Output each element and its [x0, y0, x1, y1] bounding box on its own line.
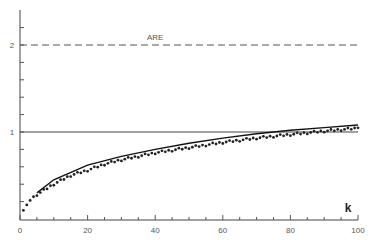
data-point — [309, 131, 312, 134]
data-point — [286, 133, 289, 136]
data-point — [319, 130, 322, 133]
data-point — [265, 136, 268, 139]
data-point — [42, 188, 45, 191]
data-point — [144, 153, 147, 156]
data-point — [147, 153, 150, 156]
x-axis-label: k — [345, 201, 352, 215]
data-point — [86, 170, 89, 173]
data-point — [323, 131, 326, 134]
data-point — [333, 129, 336, 132]
data-point — [171, 150, 174, 153]
data-point — [350, 128, 353, 131]
data-point — [269, 135, 272, 138]
theoretical-curve — [37, 125, 358, 193]
data-point — [46, 187, 49, 190]
data-point — [93, 165, 96, 168]
data-point — [225, 141, 228, 144]
data-point — [150, 152, 153, 155]
labels: 02040608010012kARE — [10, 33, 365, 235]
data-point — [275, 135, 278, 138]
data-point — [272, 136, 275, 139]
data-point — [232, 140, 235, 143]
data-point — [96, 166, 99, 169]
data-point — [296, 131, 299, 134]
annotation-label: ARE — [147, 33, 163, 42]
x-tick-label: 80 — [286, 226, 295, 235]
data-point — [29, 199, 32, 202]
y-tick-label: 1 — [10, 128, 15, 137]
data-point — [79, 171, 82, 174]
data-point — [289, 134, 292, 137]
x-tick-label: 100 — [351, 226, 365, 235]
data-point — [59, 178, 62, 181]
x-tick-label: 0 — [18, 226, 23, 235]
data-point — [76, 171, 79, 174]
data-point — [161, 149, 164, 152]
data-point — [235, 139, 238, 142]
data-point — [83, 169, 86, 172]
data-point — [157, 151, 160, 154]
data-point — [279, 133, 282, 136]
data-point — [32, 195, 35, 198]
data-point — [130, 157, 133, 160]
series — [20, 45, 359, 212]
data-point — [184, 146, 187, 149]
data-point — [303, 131, 306, 134]
data-point — [211, 142, 214, 145]
data-point — [353, 127, 356, 130]
data-point — [90, 168, 93, 171]
data-point — [137, 156, 140, 159]
data-point — [242, 138, 245, 141]
data-point — [39, 191, 42, 194]
data-point — [73, 173, 76, 176]
data-point — [208, 143, 211, 146]
data-point — [127, 156, 130, 159]
data-point — [346, 127, 349, 130]
data-point — [167, 149, 170, 152]
data-point — [164, 150, 167, 153]
data-point — [218, 141, 221, 144]
data-point — [117, 159, 120, 162]
data-point — [100, 163, 103, 166]
data-point — [245, 137, 248, 140]
data-point — [259, 136, 262, 139]
data-point — [238, 140, 241, 143]
data-point — [69, 175, 72, 178]
data-point — [215, 143, 218, 146]
data-point — [25, 204, 28, 207]
data-point — [154, 153, 157, 156]
data-point — [120, 159, 123, 162]
data-point — [106, 162, 109, 165]
data-point — [49, 184, 52, 187]
data-point — [228, 139, 231, 142]
data-point — [205, 145, 208, 148]
data-point — [36, 194, 39, 197]
data-point — [110, 160, 113, 163]
x-tick-label: 40 — [151, 226, 160, 235]
data-point — [103, 164, 106, 167]
data-point — [248, 138, 251, 141]
data-point — [174, 148, 177, 151]
data-point — [123, 158, 126, 161]
data-point — [113, 161, 116, 164]
data-point — [52, 184, 55, 187]
data-point — [22, 209, 25, 212]
data-point — [63, 178, 66, 181]
data-point — [177, 147, 180, 150]
data-point — [262, 135, 265, 138]
data-point — [140, 154, 143, 157]
chart: 02040608010012kARE — [0, 0, 378, 240]
data-point — [336, 128, 339, 131]
x-tick-label: 20 — [83, 226, 92, 235]
data-point — [340, 129, 343, 132]
data-point — [221, 142, 224, 145]
x-tick-label: 60 — [218, 226, 227, 235]
data-point — [316, 131, 319, 134]
data-point — [299, 133, 302, 136]
data-point — [56, 181, 59, 184]
data-point — [292, 133, 295, 136]
data-point — [66, 175, 69, 178]
data-point — [357, 126, 360, 129]
data-point — [252, 137, 255, 140]
data-point — [198, 145, 201, 148]
